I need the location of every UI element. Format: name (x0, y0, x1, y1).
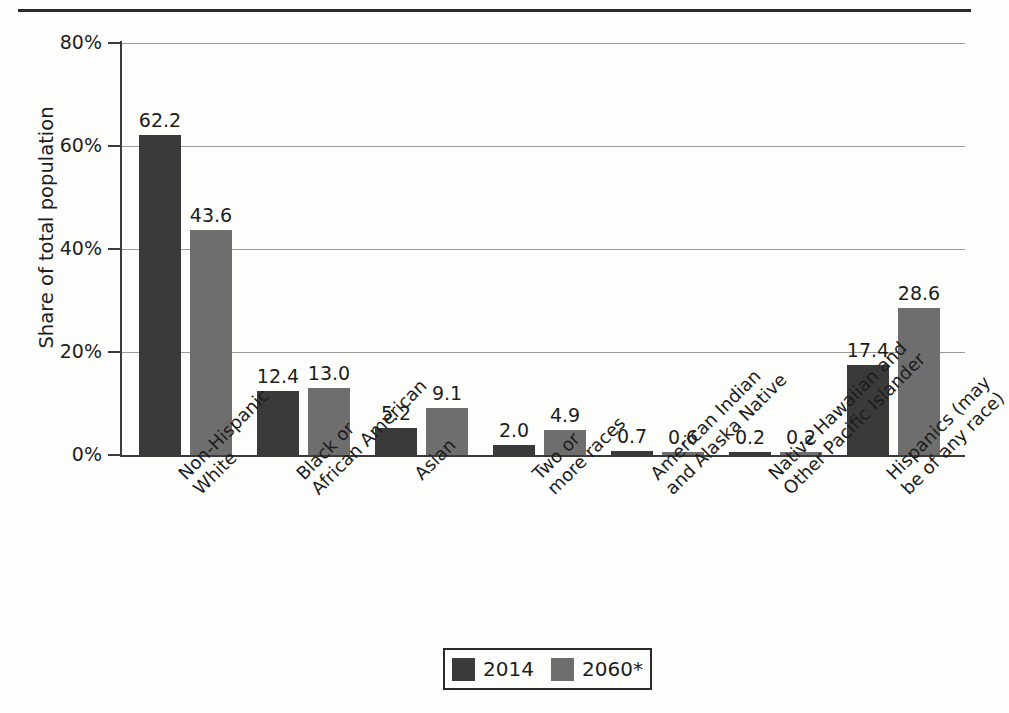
bar-value-label: 62.2 (130, 111, 190, 130)
legend-label: 2060* (582, 659, 643, 679)
legend-label: 2014 (483, 659, 534, 679)
bar-2014-group-1 (139, 135, 181, 455)
y-axis-title: Share of total population (35, 78, 58, 378)
bar-2014-group-6 (729, 452, 771, 455)
y-tick-label-80%: 80% (40, 33, 102, 52)
top-divider-rule (18, 9, 971, 12)
legend-swatch-2014 (452, 658, 475, 681)
y-tick-label-0%: 0% (40, 445, 102, 464)
bar-value-label: 43.6 (181, 206, 241, 225)
legend-item-2014: 2014 (452, 658, 534, 681)
legend-swatch-2060 (551, 658, 574, 681)
bar-2014-group-5 (611, 451, 653, 455)
y-tick-label-20%: 20% (40, 342, 102, 361)
bar-value-label: 13.0 (299, 364, 359, 383)
y-tick-label-40%: 40% (40, 239, 102, 258)
bar-value-label: 28.6 (889, 284, 949, 303)
legend-item-2060: 2060* (551, 658, 643, 681)
y-tick-label-60%: 60% (40, 136, 102, 155)
chart-legend: 20142060* (443, 648, 652, 690)
bar-2014-group-4 (493, 445, 535, 455)
